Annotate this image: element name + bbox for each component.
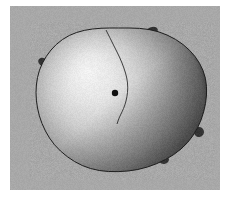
blob-render-canvas <box>0 0 231 199</box>
figure-root <box>0 0 231 199</box>
